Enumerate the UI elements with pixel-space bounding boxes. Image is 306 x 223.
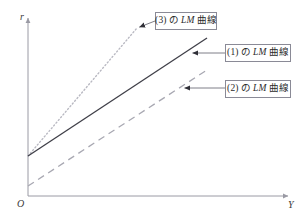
- callout-3-particle: の: [168, 16, 180, 26]
- plot-canvas: [0, 0, 306, 223]
- callout-1-suffix: 曲線: [268, 48, 289, 58]
- lm-curve-1: [28, 38, 207, 156]
- callout-box-lm-2: (2) の LM 曲線: [225, 80, 291, 98]
- origin-label: O: [17, 199, 24, 209]
- leader-line-3: [139, 21, 155, 27]
- callout-3-number: (3): [155, 16, 168, 26]
- callout-box-lm-3: (3) の LM 曲線: [155, 12, 217, 30]
- callout-1-number: (1): [227, 48, 240, 58]
- callout-3-curve-name: LM: [180, 16, 196, 26]
- callout-3-suffix: 曲線: [196, 16, 217, 26]
- callout-2-number: (2): [227, 84, 240, 94]
- lm-curve-3: [28, 28, 137, 156]
- callout-2-curve-name: LM: [252, 84, 268, 94]
- horizontal-axis-label: Y: [288, 200, 294, 210]
- callout-1-curve-name: LM: [252, 48, 268, 58]
- lm-curve-2: [28, 70, 207, 186]
- callout-1-particle: の: [240, 48, 252, 58]
- vertical-axis-label: r: [20, 12, 24, 22]
- callout-2-particle: の: [240, 84, 252, 94]
- callout-box-lm-1: (1) の LM 曲線: [225, 44, 291, 62]
- lm-curve-figure: r Y O (3) の LM 曲線 (1) の LM 曲線 (2) の LM 曲…: [0, 0, 306, 223]
- callout-2-suffix: 曲線: [268, 84, 289, 94]
